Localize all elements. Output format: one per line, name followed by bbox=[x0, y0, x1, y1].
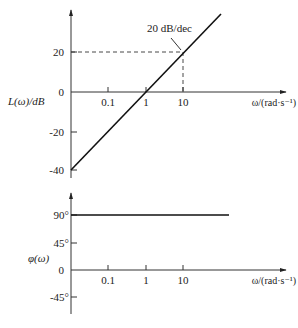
phase-plot: 90° 45° 0 -45° 0.1 1 10 φ(ω) ω/(rad·s⁻¹) bbox=[28, 193, 296, 314]
annotation-leader bbox=[171, 38, 181, 50]
y-tick-0-phase: 0 bbox=[59, 264, 65, 276]
y-tick-minus-20: -20 bbox=[49, 126, 64, 138]
y-tick-20: 20 bbox=[53, 46, 65, 58]
x-tick-0.1-phase: 0.1 bbox=[101, 274, 115, 286]
magnitude-y-label: L(ω)/dB bbox=[7, 95, 45, 108]
phase-x-label: ω/(rad·s⁻¹) bbox=[252, 275, 296, 287]
x-tick-1-phase: 1 bbox=[143, 274, 149, 286]
x-tick-0.1: 0.1 bbox=[101, 96, 115, 108]
magnitude-plot: 20 0 -20 -40 0.1 1 10 L(ω)/dB ω/(rad·s⁻¹… bbox=[7, 10, 296, 178]
x-tick-10-phase: 10 bbox=[178, 274, 190, 286]
phase-y-label: φ(ω) bbox=[28, 252, 50, 265]
y-tick-minus-40: -40 bbox=[49, 164, 64, 176]
y-tick-90: 90° bbox=[54, 209, 69, 221]
y-tick-minus-45: -45° bbox=[50, 291, 69, 303]
slope-annotation: 20 dB/dec bbox=[147, 22, 192, 34]
x-tick-10: 10 bbox=[178, 96, 190, 108]
bode-plot: 20 0 -20 -40 0.1 1 10 L(ω)/dB ω/(rad·s⁻¹… bbox=[0, 0, 298, 328]
x-tick-1: 1 bbox=[143, 96, 149, 108]
y-tick-0: 0 bbox=[59, 86, 65, 98]
magnitude-x-label: ω/(rad·s⁻¹) bbox=[252, 97, 296, 109]
y-tick-45: 45° bbox=[54, 237, 69, 249]
